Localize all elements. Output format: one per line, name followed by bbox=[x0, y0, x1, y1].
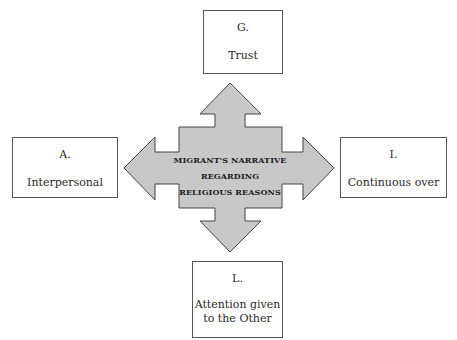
box-label: Interpersonal bbox=[13, 176, 117, 190]
box-label-line1: Attention given bbox=[193, 298, 282, 312]
box-letter: G. bbox=[204, 21, 282, 35]
box-letter: I. bbox=[341, 148, 446, 162]
center-label: MIGRANT'S NARRATIVE REGARDING RELIGIOUS … bbox=[150, 152, 310, 200]
box-letter: A. bbox=[13, 148, 117, 162]
box-trust: G. Trust bbox=[203, 10, 283, 74]
box-label-line2: to the Other bbox=[193, 312, 282, 326]
center-label-line2: RELIGIOUS REASONS bbox=[150, 184, 310, 200]
box-letter: L. bbox=[193, 272, 282, 286]
box-label: Continuous over bbox=[341, 176, 446, 190]
center-label-line1: MIGRANT'S NARRATIVE REGARDING bbox=[150, 152, 310, 184]
box-label: Trust bbox=[204, 49, 282, 63]
box-attention-given: L. Attention given to the Other bbox=[192, 261, 283, 338]
box-interpersonal: A. Interpersonal bbox=[12, 137, 118, 198]
box-continuous-over: I. Continuous over bbox=[340, 137, 447, 198]
